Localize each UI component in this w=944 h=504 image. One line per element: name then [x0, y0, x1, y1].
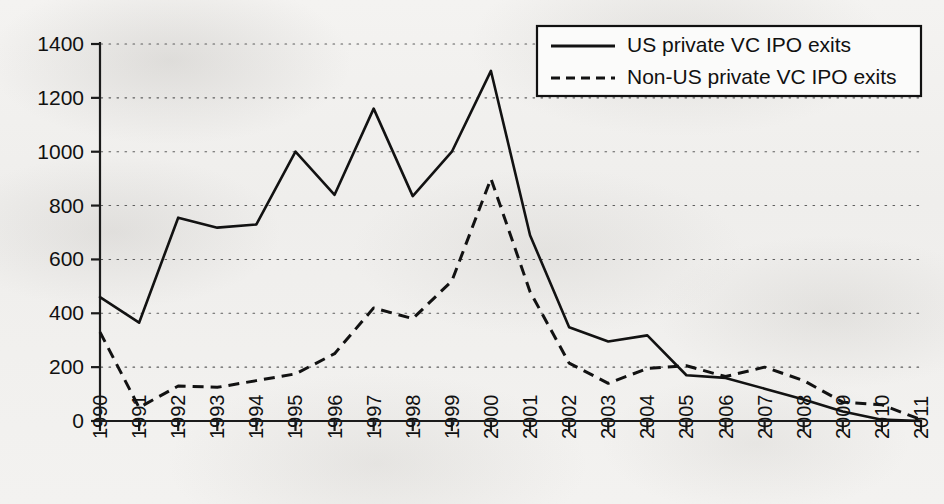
x-tick-label: 2000 — [480, 395, 502, 440]
x-tick-label: 2004 — [636, 395, 658, 440]
x-tick-label: 2005 — [675, 395, 697, 440]
series-non-us-private-vc-ipo-exits — [100, 179, 921, 420]
y-tick-label: 1000 — [37, 140, 84, 163]
legend-label: US private VC IPO exits — [627, 33, 851, 56]
x-tick-label: 2006 — [715, 395, 737, 440]
y-tick-label: 0 — [72, 409, 84, 432]
y-tick-label: 800 — [49, 194, 84, 217]
y-tick-label: 1200 — [37, 86, 84, 109]
x-tick-label: 1998 — [402, 395, 424, 440]
chart-legend: US private VC IPO exitsNon-US private VC… — [537, 26, 921, 96]
x-tick-label: 1999 — [441, 395, 463, 440]
x-tick-label: 1996 — [324, 395, 346, 440]
x-tick-label: 1992 — [167, 395, 189, 440]
y-axis-ticks — [91, 44, 100, 421]
chart-canvas: 0200400600800100012001400 19901991199219… — [0, 0, 944, 504]
line-chart: 0200400600800100012001400 19901991199219… — [0, 0, 944, 504]
x-tick-label: 1995 — [284, 395, 306, 440]
y-tick-label: 1400 — [37, 32, 84, 55]
x-tick-label: 2002 — [558, 395, 580, 440]
y-tick-label: 400 — [49, 301, 84, 324]
legend-label: Non-US private VC IPO exits — [627, 65, 897, 88]
x-tick-label: 2001 — [519, 395, 541, 440]
x-tick-label: 2003 — [597, 395, 619, 440]
x-tick-label: 1994 — [245, 395, 267, 440]
x-tick-label: 1991 — [128, 395, 150, 440]
x-tick-label: 2007 — [754, 395, 776, 440]
y-axis-tick-labels: 0200400600800100012001400 — [37, 32, 84, 432]
y-tick-label: 200 — [49, 355, 84, 378]
y-tick-label: 600 — [49, 247, 84, 270]
x-tick-label: 1997 — [363, 395, 385, 440]
x-tick-label: 1993 — [206, 395, 228, 440]
series-us-private-vc-ipo-exits — [100, 71, 921, 421]
